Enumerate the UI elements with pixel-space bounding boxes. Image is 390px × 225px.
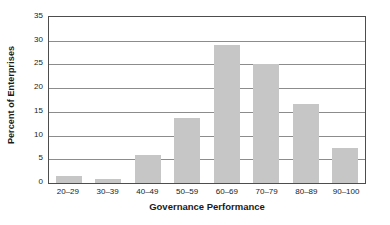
y-axis-tick-label: 15 <box>34 107 43 115</box>
x-axis-title: Governance Performance <box>48 201 366 212</box>
bar-slot <box>168 17 208 183</box>
bar-slot <box>128 17 168 183</box>
histogram-chart: Percent of Enterprises 05101520253035 20… <box>0 0 390 225</box>
bar[interactable] <box>332 148 358 183</box>
x-axis-tick-label: 50–59 <box>167 186 207 200</box>
x-axis-tick-label: 40–49 <box>128 186 168 200</box>
y-axis-tick-label: 0 <box>39 178 43 186</box>
bar-slot <box>326 17 366 183</box>
bar-slot <box>286 17 326 183</box>
y-axis-tick-label: 20 <box>34 83 43 91</box>
y-axis-tick-label: 35 <box>34 12 43 20</box>
bar[interactable] <box>95 179 121 183</box>
bar[interactable] <box>135 155 161 183</box>
bar[interactable] <box>214 45 240 183</box>
x-axis-tick-label: 60–69 <box>207 186 247 200</box>
x-axis-tick-labels: 20–2930–3940–4950–5960–6970–7980–8990–10… <box>48 186 366 200</box>
y-axis-tick-label: 5 <box>39 154 43 162</box>
bar[interactable] <box>56 176 82 183</box>
bar-slot <box>207 17 247 183</box>
y-axis-title: Percent of Enterprises <box>0 0 22 190</box>
x-axis-tick-label: 20–29 <box>48 186 88 200</box>
x-axis-tick-label: 30–39 <box>88 186 128 200</box>
bars-layer <box>49 17 365 183</box>
bar-slot <box>89 17 129 183</box>
y-axis-tick-label: 25 <box>34 59 43 67</box>
plot-area <box>48 16 366 184</box>
x-axis-tick-label: 80–89 <box>287 186 327 200</box>
bar[interactable] <box>293 104 319 183</box>
y-axis-title-text: Percent of Enterprises <box>6 46 16 144</box>
bar-slot <box>49 17 89 183</box>
bar[interactable] <box>174 118 200 183</box>
y-axis-tick-labels: 05101520253035 <box>22 16 46 184</box>
y-axis-tick-label: 30 <box>34 36 43 44</box>
y-axis-tick-label: 10 <box>34 131 43 139</box>
bar[interactable] <box>253 64 279 183</box>
x-axis-tick-label: 70–79 <box>247 186 287 200</box>
bar-slot <box>247 17 287 183</box>
x-axis-tick-label: 90–100 <box>326 186 366 200</box>
